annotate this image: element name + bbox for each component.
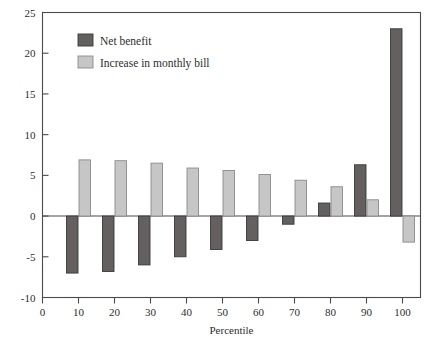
x-tick-label: 90 (361, 306, 373, 318)
bar-increase-monthly-bill-50 (223, 170, 235, 216)
y-tick-label: -5 (26, 251, 36, 263)
x-tick-label: 100 (394, 306, 411, 318)
bar-increase-monthly-bill-10 (79, 160, 91, 216)
x-tick-label: 60 (253, 306, 265, 318)
x-tick-label: 40 (181, 306, 193, 318)
bar-increase-monthly-bill-40 (187, 168, 199, 216)
bar-increase-monthly-bill-90 (367, 200, 379, 216)
y-axis: -10-50510152025 (21, 7, 49, 304)
legend-label-net-benefit: Net benefit (100, 35, 152, 47)
bar-net-benefit-70 (283, 216, 295, 224)
y-tick-label: 15 (25, 88, 37, 100)
x-tick-label: 80 (325, 306, 337, 318)
x-tick-label: 50 (217, 306, 229, 318)
bar-net-benefit-10 (67, 216, 79, 273)
x-tick-label: 10 (73, 306, 85, 318)
y-tick-label: 0 (30, 210, 36, 222)
y-tick-label: 10 (25, 129, 37, 141)
chart-container: -10-505101520250102030405060708090100Per… (0, 0, 433, 344)
y-tick-label: 25 (25, 7, 37, 19)
plot-frame (43, 13, 421, 298)
x-tick-label: 20 (109, 306, 121, 318)
bar-increase-monthly-bill-30 (151, 163, 163, 216)
legend-swatch-net-benefit (78, 34, 93, 46)
legend-label-increase-monthly-bill: Increase in monthly bill (100, 57, 210, 70)
bar-increase-monthly-bill-80 (331, 187, 343, 216)
bar-net-benefit-100 (391, 29, 403, 216)
y-tick-label: 5 (30, 169, 36, 181)
legend: Net benefitIncrease in monthly bill (78, 34, 210, 70)
y-tick-label: -10 (21, 292, 36, 304)
bar-chart: -10-505101520250102030405060708090100Per… (0, 0, 433, 344)
legend-swatch-increase-monthly-bill (78, 56, 93, 68)
bar-net-benefit-40 (175, 216, 187, 257)
bar-increase-monthly-bill-20 (115, 161, 127, 216)
bar-net-benefit-60 (247, 216, 259, 240)
x-axis-title: Percentile (210, 324, 254, 336)
x-axis: 0102030405060708090100 (40, 298, 412, 318)
bar-increase-monthly-bill-60 (259, 175, 271, 217)
bar-increase-monthly-bill-100 (403, 216, 415, 242)
bar-net-benefit-90 (355, 165, 367, 216)
y-tick-label: 20 (25, 47, 37, 59)
x-tick-label: 0 (40, 306, 46, 318)
bar-net-benefit-30 (139, 216, 151, 265)
x-tick-label: 70 (289, 306, 301, 318)
bar-increase-monthly-bill-70 (295, 180, 307, 216)
bar-net-benefit-20 (103, 216, 115, 271)
x-tick-label: 30 (145, 306, 157, 318)
bar-net-benefit-50 (211, 216, 223, 249)
bar-net-benefit-80 (319, 203, 331, 216)
